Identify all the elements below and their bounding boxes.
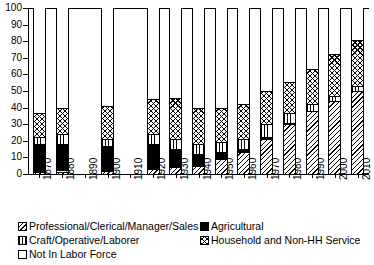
bar-segment — [307, 104, 318, 111]
x-axis-tick — [335, 174, 336, 178]
y-axis-tick — [23, 58, 28, 59]
x-axis-tick-label: 1890 — [89, 158, 99, 180]
bar-segment — [170, 167, 181, 174]
legend-entry: Craft/Operative/Laborer — [18, 233, 139, 247]
bar-segment — [148, 8, 159, 99]
bar-segment — [102, 106, 113, 139]
bar-segment — [102, 8, 113, 106]
y-axis-tick — [23, 108, 28, 109]
bar-segment — [34, 113, 45, 138]
y-axis-tick-label: 70 — [0, 53, 22, 63]
bar-segment — [307, 111, 318, 174]
bar-1980 — [283, 8, 296, 174]
bar-segment — [261, 139, 272, 174]
bar-segment — [284, 123, 295, 124]
bar-segment — [284, 82, 295, 114]
legend-swatch-icon — [200, 222, 209, 231]
bar-segment — [148, 144, 159, 169]
bar-1880 — [56, 8, 69, 174]
y-axis-tick — [23, 41, 28, 42]
x-axis-tick — [312, 174, 313, 178]
legend-swatch-icon — [18, 222, 27, 231]
y-axis-tick-label: 80 — [0, 36, 22, 46]
x-axis-tick — [199, 174, 200, 178]
chart-legend: Professional/Clerical/Manager/SalesAgric… — [18, 219, 368, 261]
bar-segment — [352, 86, 363, 91]
bar-segment — [238, 149, 249, 152]
x-axis-tick — [289, 174, 290, 178]
bar-segment — [284, 8, 295, 82]
bar-1950 — [215, 8, 228, 174]
bar-segment — [352, 40, 363, 86]
bar-segment — [57, 144, 68, 171]
bar-segment — [148, 169, 159, 174]
y-axis-tick — [23, 74, 28, 75]
legend-swatch-icon — [18, 250, 27, 259]
x-axis-tick — [62, 174, 63, 178]
legend-row: Not In Labor Force — [18, 247, 368, 261]
y-axis-tick — [23, 91, 28, 92]
bar-segment — [238, 8, 249, 104]
bar-1970 — [260, 8, 273, 174]
bar-segment — [216, 108, 227, 143]
bar-segment — [34, 8, 45, 113]
x-axis-tick — [244, 174, 245, 178]
y-axis-tick-label: 50 — [0, 86, 22, 96]
bar-2010 — [351, 8, 364, 174]
bar-segment — [148, 134, 159, 144]
x-axis-tick — [153, 174, 154, 178]
bar-segment — [102, 171, 113, 174]
bar-segment — [352, 91, 363, 174]
y-axis-tick-label: 40 — [0, 103, 22, 113]
bar-2000 — [328, 8, 341, 174]
bar-segment — [170, 8, 181, 98]
bar-segment — [170, 139, 181, 149]
bar-segment — [102, 139, 113, 146]
bar-1960 — [237, 8, 250, 174]
bar-segment — [261, 137, 272, 139]
x-axis-tick — [176, 174, 177, 178]
y-axis-tick-label: 20 — [0, 136, 22, 146]
y-axis-tick — [23, 141, 28, 142]
bar-segment — [238, 139, 249, 149]
bar-segment — [193, 108, 204, 145]
bar-segment — [216, 152, 227, 159]
bar-segment — [57, 172, 68, 174]
bar-segment — [193, 166, 204, 174]
bar-1920 — [147, 8, 160, 174]
y-axis-tick-label: 90 — [0, 20, 22, 30]
bar-1990 — [306, 8, 319, 174]
bar-segment — [34, 144, 45, 172]
legend-swatch-icon — [18, 236, 27, 245]
bar-segment — [261, 91, 272, 124]
y-axis-tick-label: 60 — [0, 69, 22, 79]
bar-segment — [170, 149, 181, 167]
bar-segment — [307, 8, 318, 69]
bar-segment — [261, 8, 272, 91]
legend-swatch-icon — [200, 236, 209, 245]
y-axis-tick-label: 30 — [0, 119, 22, 129]
bar-segment — [261, 124, 272, 137]
y-axis-tick-label: 100 — [0, 3, 22, 13]
x-axis-tick — [130, 174, 131, 178]
bar-segment — [57, 8, 68, 108]
legend-row: Craft/Operative/LaborerHousehold and Non… — [18, 233, 368, 247]
bar-segment — [216, 159, 227, 174]
bar-segment — [329, 8, 340, 54]
y-axis-tick — [23, 157, 28, 158]
y-axis-tick — [23, 8, 28, 9]
legend-label: Craft/Operative/Laborer — [29, 233, 139, 247]
bar-segment — [352, 8, 363, 40]
bar-segment — [170, 98, 181, 140]
bar-segment — [284, 124, 295, 174]
bar-1900 — [101, 8, 114, 174]
bar-1870 — [33, 8, 46, 174]
legend-entry: Not In Labor Force — [18, 247, 117, 261]
x-axis-tick — [221, 174, 222, 178]
legend-label: Household and Non-HH Service — [211, 233, 360, 247]
bar-segment — [102, 146, 113, 171]
y-axis-tick — [23, 124, 28, 125]
bar-segment — [284, 113, 295, 123]
bar-segment — [193, 144, 204, 154]
bar-segment — [329, 96, 340, 101]
